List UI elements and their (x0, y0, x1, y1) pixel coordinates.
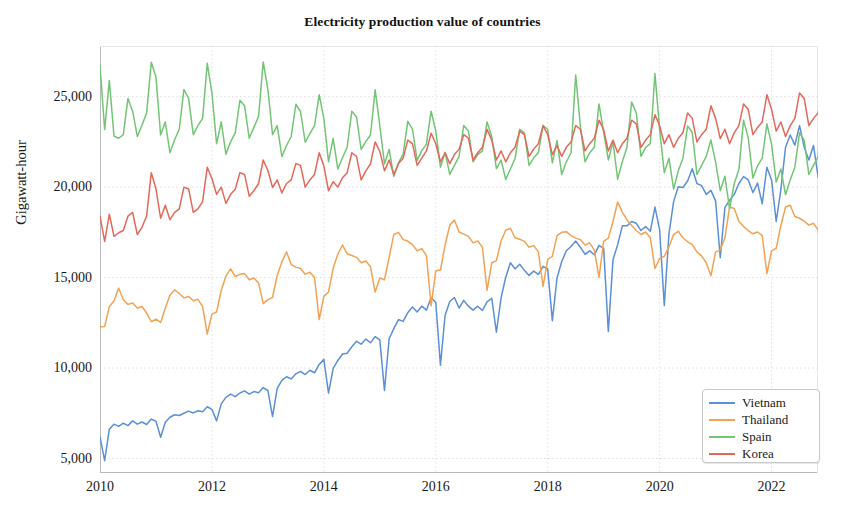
chart-figure: Electricity production value of countrie… (0, 0, 845, 531)
legend-label: Korea (742, 447, 774, 460)
series-line-korea (100, 84, 818, 241)
legend-label: Thailand (742, 413, 788, 426)
chart-title: Electricity production value of countrie… (0, 14, 845, 30)
legend-item-vietnam[interactable]: Vietnam (703, 394, 819, 411)
x-tick-label: 2010 (70, 479, 130, 495)
legend-swatch-spain-icon (709, 436, 735, 438)
x-tick-label: 2014 (294, 479, 354, 495)
x-tick-label: 2016 (406, 479, 466, 495)
x-tick-label: 2022 (742, 479, 802, 495)
legend-label: Spain (742, 430, 772, 443)
legend-item-spain[interactable]: Spain (703, 428, 819, 445)
series-line-thailand (100, 202, 818, 334)
y-tick-label: 20,000 (8, 180, 92, 194)
legend-swatch-korea-icon (709, 453, 735, 455)
series-line-spain (100, 62, 818, 209)
y-tick-label: 5,000 (8, 452, 92, 466)
y-tick-label: 15,000 (8, 271, 92, 285)
legend-label: Vietnam (742, 396, 786, 409)
x-tick-label: 2012 (182, 479, 242, 495)
y-tick-label: 10,000 (8, 361, 92, 375)
x-tick-label: 2020 (630, 479, 690, 495)
legend-item-thailand[interactable]: Thailand (703, 411, 819, 428)
legend-item-korea[interactable]: Korea (703, 445, 819, 462)
x-tick-label: 2018 (518, 479, 578, 495)
legend-swatch-vietnam-icon (709, 402, 735, 404)
legend-swatch-thailand-icon (709, 419, 735, 421)
x-axis-tick-labels: 2010201220142016201820202022 (0, 479, 845, 501)
y-tick-label: 25,000 (8, 90, 92, 104)
chart-legend[interactable]: VietnamThailandSpainKorea (702, 389, 820, 463)
